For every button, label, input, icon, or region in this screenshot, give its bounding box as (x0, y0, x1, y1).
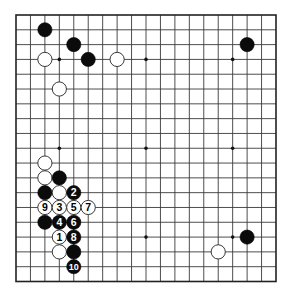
black-stone-move-10[interactable]: 10 (67, 260, 81, 274)
white-stone-icon (52, 245, 66, 259)
black-stone[interactable] (52, 171, 66, 185)
black-stone[interactable] (38, 23, 52, 37)
black-stone-icon (240, 38, 254, 52)
star-point-icon (144, 146, 148, 150)
move-number-label: 3 (56, 201, 62, 213)
white-stone-move-7[interactable]: 7 (81, 200, 95, 214)
move-number-label: 10 (69, 262, 79, 272)
move-number-label: 6 (71, 216, 77, 228)
star-point-icon (144, 235, 148, 239)
move-number-label: 9 (42, 201, 48, 213)
black-stone-icon (81, 52, 95, 66)
black-stone[interactable] (81, 52, 95, 66)
black-stone-move-8[interactable]: 8 (67, 230, 81, 244)
black-stone-icon (67, 245, 81, 259)
white-stone[interactable] (38, 52, 52, 66)
white-stone[interactable] (52, 82, 66, 96)
black-stone[interactable] (67, 38, 81, 52)
black-stone[interactable] (38, 215, 52, 229)
black-stone[interactable] (240, 230, 254, 244)
white-stone[interactable] (38, 156, 52, 170)
white-stone-icon (52, 82, 66, 96)
black-stone-icon (67, 38, 81, 52)
star-point-icon (144, 58, 148, 62)
black-stone[interactable] (38, 186, 52, 200)
move-number-label: 1 (56, 231, 62, 243)
move-number-label: 2 (71, 186, 77, 198)
black-stone-icon (52, 171, 66, 185)
black-stone-move-6[interactable]: 6 (67, 215, 81, 229)
white-stone[interactable] (211, 245, 225, 259)
white-stone-icon (38, 52, 52, 66)
black-stone-icon (38, 23, 52, 37)
white-stone[interactable] (52, 186, 66, 200)
star-point-icon (58, 58, 62, 62)
black-stone-icon (240, 230, 254, 244)
go-board-canvas[interactable]: 29357461810 (0, 0, 288, 297)
white-stone[interactable] (110, 52, 124, 66)
black-stone[interactable] (67, 245, 81, 259)
white-stone-icon (211, 245, 225, 259)
black-stone-move-2[interactable]: 2 (67, 186, 81, 200)
white-stone-icon (110, 52, 124, 66)
white-stone[interactable] (52, 245, 66, 259)
star-point-icon (58, 146, 62, 150)
star-point-icon (231, 235, 235, 239)
move-number-label: 7 (85, 201, 91, 213)
star-point-icon (231, 146, 235, 150)
black-stone[interactable] (240, 38, 254, 52)
black-stone-icon (38, 215, 52, 229)
white-stone[interactable] (38, 171, 52, 185)
white-stone-move-5[interactable]: 5 (67, 200, 81, 214)
black-stone-move-4[interactable]: 4 (52, 215, 66, 229)
move-number-label: 8 (71, 231, 77, 243)
move-number-label: 5 (71, 201, 77, 213)
white-stone-icon (38, 156, 52, 170)
white-stone-icon (38, 171, 52, 185)
white-stone-move-9[interactable]: 9 (38, 200, 52, 214)
white-stone-move-3[interactable]: 3 (52, 200, 66, 214)
star-point-icon (231, 58, 235, 62)
black-stone-icon (38, 186, 52, 200)
white-stone-icon (52, 186, 66, 200)
go-board[interactable]: 29357461810 (0, 0, 288, 297)
move-number-label: 4 (56, 216, 62, 228)
white-stone-move-1[interactable]: 1 (52, 230, 66, 244)
